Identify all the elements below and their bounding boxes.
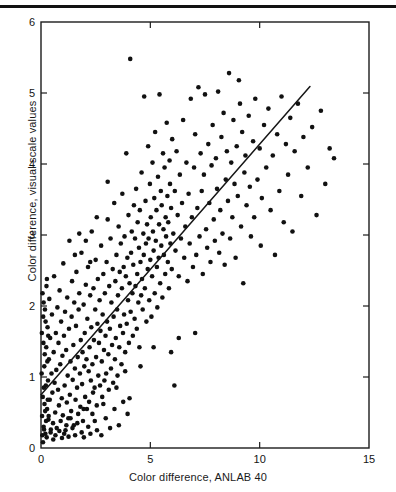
svg-text:0: 0 bbox=[38, 453, 44, 465]
svg-text:5: 5 bbox=[147, 453, 153, 465]
svg-text:10: 10 bbox=[254, 453, 266, 465]
y-axis-label: Color difference, visual scale values bbox=[26, 66, 38, 316]
svg-text:1: 1 bbox=[29, 371, 35, 383]
regression-line bbox=[41, 87, 310, 395]
y-axis-label-wrapper: Color difference, visual scale values bbox=[26, 66, 38, 316]
data-points bbox=[39, 57, 336, 445]
svg-text:6: 6 bbox=[29, 16, 35, 28]
figure-container: 0510150123456 Color difference, ANLAB 40… bbox=[0, 0, 396, 492]
svg-text:15: 15 bbox=[363, 453, 375, 465]
svg-text:0: 0 bbox=[29, 442, 35, 454]
axis-ticks bbox=[41, 22, 369, 448]
scatter-plot: 0510150123456 bbox=[0, 0, 396, 492]
x-axis-label: Color difference, ANLAB 40 bbox=[0, 471, 396, 483]
axis-tick-labels: 0510150123456 bbox=[29, 16, 375, 465]
plot-frame bbox=[41, 22, 369, 448]
